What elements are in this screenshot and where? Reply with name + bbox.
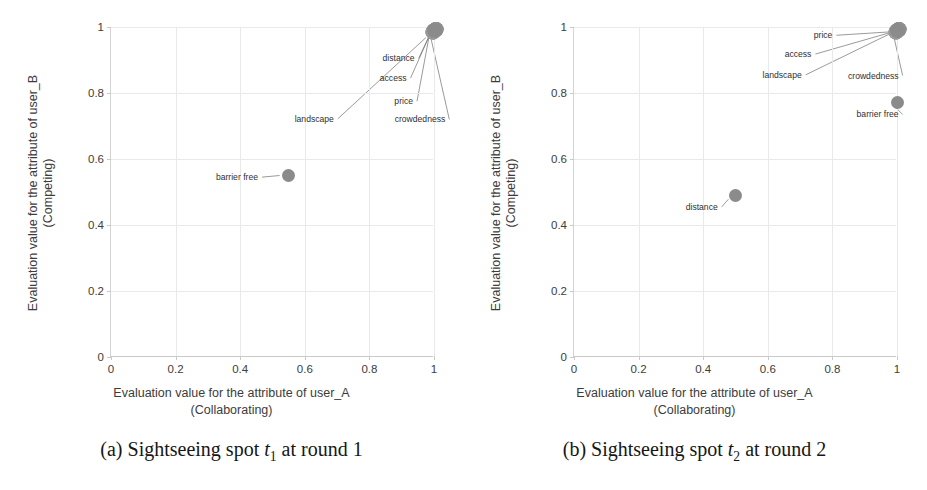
caption-symbol-b: t2 (728, 438, 740, 460)
caption-subscript-b: 2 (733, 449, 740, 464)
x-axis-title-a: Evaluation value for the attribute of us… (0, 385, 463, 419)
point-annotation-label: distance (686, 203, 718, 212)
gridline-horizontal (111, 27, 433, 28)
x-tick-label: 0.6 (297, 363, 313, 375)
annotation-leader-line (806, 34, 889, 75)
x-tick-label: 0 (571, 363, 577, 375)
y-tick-mark (570, 159, 574, 160)
chart-panel-a: Evaluation value for the attribute of us… (0, 0, 463, 490)
point-annotation-label: landscape (763, 71, 802, 80)
gridline-vertical (703, 27, 704, 356)
gridline-vertical (639, 27, 640, 356)
caption-suffix-b: at round 2 (745, 438, 826, 460)
y-tick-mark (107, 93, 111, 94)
y-tick-mark (107, 225, 111, 226)
data-point-marker (890, 23, 905, 38)
gridline-horizontal (574, 27, 896, 28)
gridline-horizontal (574, 159, 896, 160)
gridline-horizontal (111, 159, 433, 160)
data-point-marker (891, 96, 904, 109)
gridline-horizontal (574, 93, 896, 94)
point-annotation-label: access (380, 74, 407, 83)
point-annotation-label: price (814, 31, 833, 40)
x-tick-mark (240, 356, 241, 360)
x-tick-mark (832, 356, 833, 360)
x-tick-label: 0 (108, 363, 114, 375)
x-tick-label: 0.8 (824, 363, 840, 375)
y-tick-label: 0.6 (88, 153, 104, 165)
gridline-vertical (305, 27, 306, 356)
x-tick-mark (111, 356, 112, 360)
figure-row: Evaluation value for the attribute of us… (0, 0, 927, 490)
y-tick-label: 0.8 (88, 87, 104, 99)
x-tick-mark (369, 356, 370, 360)
x-tick-mark (305, 356, 306, 360)
annotation-leader-line (836, 32, 889, 35)
point-annotation-label: crowdedness (395, 115, 446, 124)
figure-caption-b: (b) Sightseeing spot t2 at round 2 (463, 438, 926, 465)
point-annotation-label: price (394, 97, 413, 106)
y-tick-mark (570, 27, 574, 28)
gridline-horizontal (574, 291, 896, 292)
plot-area-b: 00.20.40.60.8100.20.40.60.81priceaccessl… (573, 27, 896, 357)
y-tick-mark (107, 27, 111, 28)
plot-area-a: 00.20.40.60.8100.20.40.60.81distanceacce… (110, 27, 433, 357)
gridline-vertical (176, 27, 177, 356)
y-tick-label: 0 (561, 351, 567, 363)
y-tick-mark (570, 225, 574, 226)
x-tick-label: 0.2 (631, 363, 647, 375)
x-tick-mark (434, 356, 435, 360)
y-tick-label: 0.4 (551, 219, 567, 231)
point-annotation-label: access (785, 50, 812, 59)
x-axis-title-line2-a: (Collaborating) (0, 402, 463, 419)
data-point-marker (427, 23, 442, 38)
caption-prefix-b: (b) Sightseeing spot (563, 438, 723, 460)
data-point-marker (729, 189, 742, 202)
y-tick-mark (107, 159, 111, 160)
point-annotation-label: barrier free (216, 173, 258, 182)
y-axis-title-line1-a: Evaluation value for the attribute of us… (26, 74, 40, 310)
figure-caption-a: (a) Sightseeing spot t1 at round 1 (0, 438, 463, 465)
y-tick-label: 0.2 (551, 285, 567, 297)
x-tick-mark (639, 356, 640, 360)
caption-symbol-a: t1 (264, 438, 276, 460)
chart-panel-b: Evaluation value for the attribute of us… (463, 0, 926, 490)
x-axis-title-line1-a: Evaluation value for the attribute of us… (0, 385, 463, 402)
annotation-leader-line (417, 36, 429, 101)
gridline-vertical (369, 27, 370, 356)
gridline-horizontal (111, 225, 433, 226)
point-annotation-label: landscape (295, 114, 334, 123)
x-tick-mark (768, 356, 769, 360)
point-annotation-label: barrier free (857, 110, 899, 119)
data-point-marker (282, 169, 295, 182)
point-annotation-label: distance (383, 54, 415, 63)
caption-suffix-a: at round 1 (282, 438, 363, 460)
y-tick-mark (570, 93, 574, 94)
x-tick-mark (703, 356, 704, 360)
y-axis-title-b: Evaluation value for the attribute of us… (481, 25, 527, 360)
y-tick-label: 1 (561, 21, 567, 33)
gridline-horizontal (574, 225, 896, 226)
x-tick-mark (574, 356, 575, 360)
y-tick-label: 0.6 (551, 153, 567, 165)
y-tick-mark (107, 291, 111, 292)
x-tick-label: 1 (894, 363, 900, 375)
y-tick-label: 0.4 (88, 219, 104, 231)
caption-subscript-a: 1 (270, 449, 277, 464)
annotation-leader-line (722, 199, 729, 207)
x-axis-title-b: Evaluation value for the attribute of us… (463, 385, 926, 419)
annotation-leader-line (419, 36, 430, 58)
caption-prefix-a: (a) Sightseeing spot (100, 438, 259, 460)
gridline-vertical (832, 27, 833, 356)
y-tick-label: 0 (98, 351, 104, 363)
x-tick-label: 0.6 (760, 363, 776, 375)
annotation-leader-line (262, 176, 280, 178)
point-annotation-label: crowdedness (848, 71, 899, 80)
x-tick-mark (897, 356, 898, 360)
y-axis-title-a: Evaluation value for the attribute of us… (18, 25, 64, 360)
y-tick-mark (570, 291, 574, 292)
y-tick-label: 1 (98, 21, 104, 33)
x-tick-label: 1 (431, 363, 437, 375)
gridline-horizontal (111, 93, 433, 94)
gridline-vertical (434, 27, 435, 356)
